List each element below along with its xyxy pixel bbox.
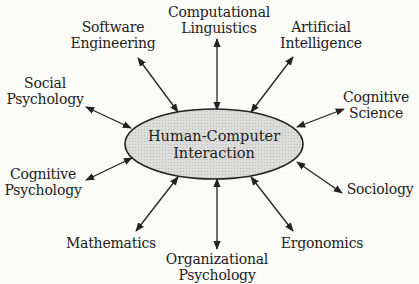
node-label-line: Artificial bbox=[280, 19, 362, 35]
arrow-cognitive-science bbox=[297, 109, 344, 127]
node-organizational-psychology: Organizational Psychology bbox=[166, 251, 268, 283]
node-label-line: Science bbox=[343, 105, 409, 121]
node-label-line: Social bbox=[6, 75, 83, 91]
node-social-psychology: Social Psychology bbox=[6, 75, 83, 107]
node-label-line: Software bbox=[70, 19, 155, 35]
node-computational-linguistics: Computational Linguistics bbox=[168, 4, 270, 36]
arrow-mathematics bbox=[136, 177, 178, 231]
arrow-sociology bbox=[297, 162, 342, 193]
node-sociology: Sociology bbox=[347, 181, 414, 197]
node-cognitive-science: Cognitive Science bbox=[343, 89, 409, 121]
node-artificial-intelligence: Artificial Intelligence bbox=[280, 19, 362, 51]
node-ergonomics: Ergonomics bbox=[281, 235, 364, 251]
arrow-social-psychology bbox=[86, 107, 131, 128]
arrow-software-engineering bbox=[138, 58, 178, 112]
node-label-line: Intelligence bbox=[280, 35, 362, 51]
arrow-artificial-intelligence bbox=[251, 57, 293, 112]
arrow-cognitive-psychology bbox=[86, 158, 132, 180]
node-software-engineering: Software Engineering bbox=[70, 19, 155, 51]
node-label-line: Computational bbox=[168, 4, 270, 20]
center-label-line-1: Human-Computer bbox=[148, 128, 280, 145]
node-label-line: Cognitive bbox=[343, 89, 409, 105]
node-label-line: Linguistics bbox=[168, 20, 270, 36]
node-cognitive-psychology: Cognitive Psychology bbox=[4, 166, 81, 198]
node-label-line: Organizational bbox=[166, 251, 268, 267]
node-label-line: Sociology bbox=[347, 181, 414, 197]
node-label-line: Psychology bbox=[4, 182, 81, 198]
center-label-line-2: Interaction bbox=[148, 145, 280, 162]
node-label-line: Cognitive bbox=[4, 166, 81, 182]
node-label-line: Mathematics bbox=[66, 235, 156, 251]
arrow-ergonomics bbox=[251, 177, 293, 231]
node-mathematics: Mathematics bbox=[66, 235, 156, 251]
node-label-line: Ergonomics bbox=[281, 235, 364, 251]
node-label-line: Psychology bbox=[6, 91, 83, 107]
node-label-line: Psychology bbox=[166, 267, 268, 283]
node-label-line: Engineering bbox=[70, 35, 155, 51]
center-node-label: Human-Computer Interaction bbox=[148, 128, 280, 162]
